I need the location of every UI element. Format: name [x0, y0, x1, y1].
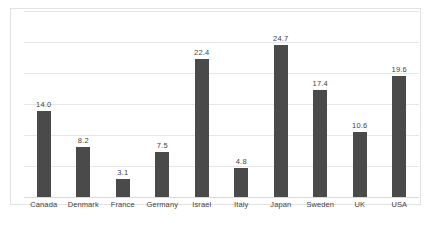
- x-axis-category-labels: CanadaDenmarkFranceGermanyIsraelItalyJap…: [24, 200, 419, 214]
- bar-value-label: 19.6: [392, 65, 407, 74]
- category-label: UK: [340, 200, 380, 209]
- category-label: France: [103, 200, 143, 209]
- category-label: Italy: [222, 200, 262, 209]
- category-label: Denmark: [64, 200, 104, 209]
- category-label: Germany: [143, 200, 183, 209]
- bars-group: 14.08.23.17.522.44.824.717.410.619.6: [24, 12, 419, 198]
- category-label: USA: [380, 200, 420, 209]
- bar-group: 10.6: [340, 12, 380, 198]
- bar-group: 24.7: [261, 12, 301, 198]
- bar: [76, 147, 90, 198]
- bar-group: 17.4: [301, 12, 341, 198]
- bar-group: 19.6: [380, 12, 420, 198]
- x-axis-line: [24, 197, 419, 198]
- bar-value-label: 17.4: [313, 79, 328, 88]
- bar: [155, 152, 169, 199]
- bar-value-label: 24.7: [273, 34, 288, 43]
- bar-group: 14.0: [24, 12, 64, 198]
- bar-value-label: 10.6: [352, 121, 367, 130]
- bar-value-label: 22.4: [194, 48, 209, 57]
- bar-value-label: 14.0: [36, 100, 51, 109]
- bar: [234, 168, 248, 198]
- category-label: Canada: [24, 200, 64, 209]
- bar-value-label: 4.8: [236, 157, 247, 166]
- bar: [116, 179, 130, 198]
- bar-group: 4.8: [222, 12, 262, 198]
- bar: [353, 132, 367, 198]
- bar-value-label: 8.2: [78, 136, 89, 145]
- bar-group: 7.5: [143, 12, 183, 198]
- bar-group: 3.1: [103, 12, 143, 198]
- bar: [392, 76, 406, 198]
- chart-frame: 14.08.23.17.522.44.824.717.410.619.6 Can…: [10, 8, 421, 205]
- bar: [274, 45, 288, 198]
- bar: [195, 59, 209, 198]
- bar: [313, 90, 327, 198]
- category-label: Japan: [261, 200, 301, 209]
- bar-value-label: 3.1: [117, 168, 128, 177]
- bar-group: 8.2: [64, 12, 104, 198]
- plot-area: 14.08.23.17.522.44.824.717.410.619.6: [24, 12, 419, 198]
- bar-value-label: 7.5: [157, 141, 168, 150]
- bar-group: 22.4: [182, 12, 222, 198]
- category-label: Israel: [182, 200, 222, 209]
- bar: [37, 111, 51, 198]
- category-label: Sweden: [301, 200, 341, 209]
